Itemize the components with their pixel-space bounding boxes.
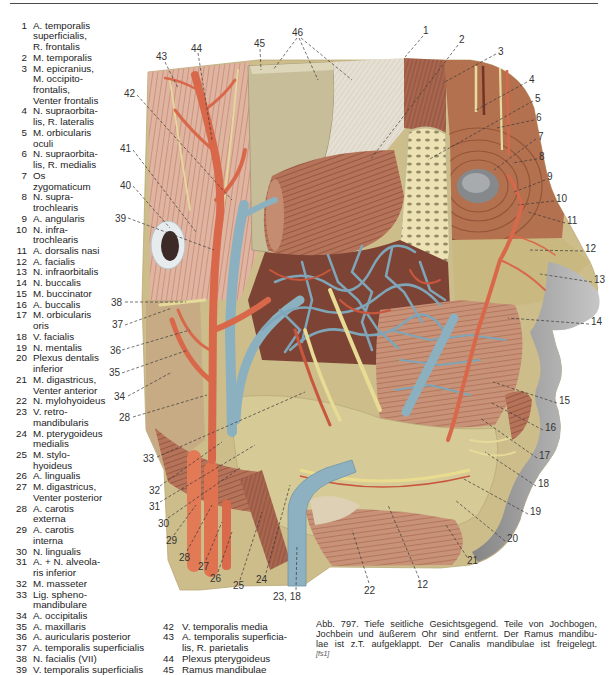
legend-number: 4 — [0, 106, 33, 127]
figure-label: 26 — [210, 573, 222, 584]
legend-text: Os zygomaticum — [33, 171, 91, 192]
figure-label: 23, 18 — [273, 591, 301, 602]
figure-label: 5 — [535, 93, 541, 104]
legend-entry: 43A. temporalis superficia- lis, R. pari… — [146, 632, 316, 653]
legend-number: 8 — [0, 192, 33, 213]
legend-text: N. supraorbita- lis, R. medialis — [33, 149, 98, 170]
figure-label: 1 — [423, 25, 429, 36]
legend-entry: 31A. + N. alveola- ris inferior — [0, 557, 150, 578]
figure-label: 7 — [538, 131, 544, 142]
legend-number: 1 — [0, 21, 33, 53]
legend-entry: 24M. pterygoideus medialis — [0, 429, 150, 450]
figure-label: 28 — [179, 552, 191, 563]
figure-label: 22 — [364, 585, 376, 596]
legend-number: 31 — [0, 557, 33, 578]
legend-text: M. orbicularis oris — [33, 310, 91, 331]
legend-text: M. digastricus, Venter anterior — [33, 375, 97, 396]
figure-label: 18 — [538, 478, 550, 489]
legend-number: 29 — [0, 525, 33, 546]
legend-entry: 6N. supraorbita- lis, R. medialis — [0, 149, 150, 170]
caption-line: Abb. 797. Tiefe seitliche Gesichtsgegend… — [316, 619, 597, 629]
figure-label: 44 — [191, 43, 203, 54]
figure-caption: Abb. 797. Tiefe seitliche Gesichtsgegend… — [316, 619, 597, 658]
figure-label: 11 — [567, 215, 578, 226]
eyeball-highlight — [462, 173, 490, 193]
legend-entry: 27M. digastricus, Venter posterior — [0, 482, 150, 503]
legend-text: M. digastricus, Venter posterior — [33, 482, 102, 503]
legend-text: V. retro- mandibularis — [33, 407, 89, 428]
figure-label: 9 — [547, 171, 553, 182]
legend-entry: 39V. temporalis superficialis — [0, 665, 150, 675]
legend-text: Plexus dentalis inferior — [33, 353, 99, 374]
figure-label: 32 — [149, 485, 161, 496]
legend-text: A. + N. alveola- ris inferior — [33, 557, 100, 578]
legend-number: 28 — [0, 504, 33, 525]
legend-text: M. temporalis — [33, 53, 92, 64]
figure-label: 25 — [233, 580, 245, 591]
figure-label: 14 — [591, 316, 603, 327]
figure-label: 19 — [530, 506, 542, 517]
legend-number: 43 — [146, 632, 182, 653]
legend-number: 23 — [0, 407, 33, 428]
legend-text: A. carotis interna — [33, 525, 74, 546]
legend-entry: 10N. infra- trochlearis — [0, 225, 150, 246]
legend-text: M. epicranius, M. occipito- frontalis, V… — [33, 64, 98, 107]
legend-text: N. supra- trochlearis — [33, 192, 78, 213]
figure-label: 15 — [559, 395, 571, 406]
legend-entry: 33Lig. spheno- mandibulare — [0, 590, 150, 611]
figure-label: 27 — [198, 561, 210, 572]
legend-entry: 28A. carotis externa — [0, 504, 150, 525]
legend-number: 5 — [0, 128, 33, 149]
legend-number: 24 — [0, 429, 33, 450]
legend-entry: 7Os zygomaticum — [0, 171, 150, 192]
figure-label: 3 — [498, 46, 504, 57]
figure-label: 12 — [585, 243, 597, 254]
lingual-artery — [222, 500, 231, 570]
legend-entry: 20Plexus dentalis inferior — [0, 353, 150, 374]
legend-text: N. supraorbita- lis, R. lateralis — [33, 106, 98, 127]
legend-number: 44 — [146, 654, 182, 665]
masseter-cut-end — [266, 179, 284, 251]
legend-text: A. temporalis superficialis, R. frontali… — [33, 21, 90, 53]
figure-label: 4 — [529, 74, 535, 85]
legend-entry: 5M. orbicularis oculi — [0, 128, 150, 149]
legend-text: V. facialis — [33, 332, 74, 343]
legend-number: 27 — [0, 482, 33, 503]
legend-bottom: 42V. temporalis media 43A. temporalis su… — [146, 622, 316, 675]
legend-entry: 44Plexus pterygoideus — [146, 654, 316, 665]
legend-number: 10 — [0, 225, 33, 246]
figure-label: 16 — [545, 422, 557, 433]
legend-entry: 29A. carotis interna — [0, 525, 150, 546]
legend-entry: 25M. stylo- hyoideus — [0, 450, 150, 471]
legend-entry: 2M. temporalis — [0, 53, 150, 64]
figure-label: 6 — [536, 112, 542, 123]
legend-number: 20 — [0, 353, 33, 374]
figure-label: 8 — [539, 151, 545, 162]
legend-number: 17 — [0, 310, 33, 331]
legend-number: 39 — [0, 665, 33, 675]
figure-label: 43 — [156, 51, 168, 62]
legend-entry: 9A. angularis — [0, 214, 150, 225]
figure-label: 30 — [158, 518, 170, 529]
legend-text: M. orbicularis oculi — [33, 128, 91, 149]
figure-label: 46 — [292, 27, 304, 38]
legend-number: 18 — [0, 332, 33, 343]
legend-number: 2 — [0, 53, 33, 64]
legend-entry: 21M. digastricus, Venter anterior — [0, 375, 150, 396]
figure-label: 29 — [166, 535, 178, 546]
figure-label: 2 — [459, 34, 465, 45]
figure-label: 24 — [256, 574, 268, 585]
figure-label: 31 — [149, 501, 161, 512]
legend-text: M. pterygoideus medialis — [33, 429, 103, 450]
legend-number: 21 — [0, 375, 33, 396]
caption-line: Jochbein und äußerem Ohr sind entfernt. … — [316, 629, 597, 639]
legend-entry: 32M. masseter — [0, 579, 150, 590]
figure-label: 17 — [539, 450, 551, 461]
legend-entry: 1A. temporalis superficialis, R. frontal… — [0, 21, 150, 53]
figure-label: 13 — [594, 274, 606, 285]
forehead-dark-band — [483, 66, 484, 115]
legend-text: Plexus pterygoideus — [182, 654, 270, 665]
legend-number: 45 — [146, 665, 182, 675]
figure-label: 10 — [556, 193, 568, 204]
figure-label: 20 — [507, 533, 519, 544]
